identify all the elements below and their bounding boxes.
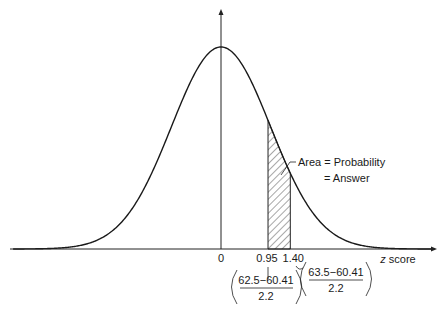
z2-leader-line xyxy=(296,266,303,269)
z2-denominator: 2.2 xyxy=(328,282,343,294)
normal-curve-diagram: 00.951.40 z score Area = Probability = A… xyxy=(0,0,444,316)
area-label-line1: Area = Probability xyxy=(298,156,386,168)
area-label-line2: = Answer xyxy=(324,172,370,184)
shaded-area xyxy=(268,120,290,249)
x-axis-label-rest: score xyxy=(386,253,416,265)
z1-numerator: 62.5−60.41 xyxy=(238,274,293,286)
z1-formula: 62.5−60.41 2.2 xyxy=(232,270,302,304)
z2-formula: 63.5−60.41 2.2 xyxy=(301,262,372,296)
z2-right-paren xyxy=(366,262,372,296)
x-axis-arrow-icon xyxy=(431,247,437,252)
x-axis-label: z score xyxy=(379,253,415,265)
tick-label: 1.40 xyxy=(283,252,304,264)
z1-left-paren xyxy=(232,270,238,304)
normal-curve xyxy=(13,47,434,249)
tick-label: 0 xyxy=(218,252,224,264)
tick-label: 0.95 xyxy=(256,252,277,264)
y-axis-arrow-icon xyxy=(219,9,224,15)
z2-numerator: 63.5−60.41 xyxy=(308,266,363,278)
z1-denominator: 2.2 xyxy=(258,290,273,302)
